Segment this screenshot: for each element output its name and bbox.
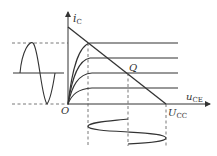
x-axis-label: uCE: [186, 91, 203, 104]
ucc-label: UCC: [168, 107, 187, 120]
origin-label: O: [61, 105, 69, 116]
characteristic-curves: [68, 43, 178, 104]
load-line: [68, 27, 166, 104]
q-point-label: Q: [129, 62, 137, 73]
output-sine-wave: [88, 119, 166, 144]
amplifier-load-line-diagram: iC uCE O Q UCC: [0, 0, 217, 156]
y-axis-label: iC: [73, 12, 82, 26]
